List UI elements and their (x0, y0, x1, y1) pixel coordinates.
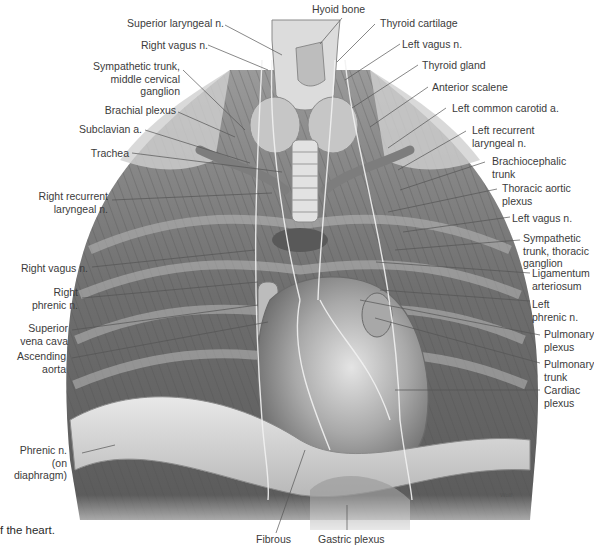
artist-signature: Wolf (500, 489, 512, 502)
label-superior-laryngeal-n: Superior laryngeal n. (127, 17, 224, 30)
label-thoracic-aortic-plexus: Thoracic aortic plexus (502, 182, 571, 207)
label-left-common-carotid-a: Left common carotid a. (452, 102, 559, 115)
label-left-vagus-n-lower: Left vagus n. (512, 212, 572, 225)
label-pulmonary-plexus: Pulmonary plexus (544, 328, 594, 353)
aortic-arch (272, 228, 328, 252)
label-ascending-aorta: Ascending aorta (17, 350, 66, 375)
label-right-vagus-n-lower: Right vagus n. (21, 262, 88, 275)
label-left-vagus-n-upper: Left vagus n. (402, 38, 462, 51)
label-cardiac-plexus: Cardiac plexus (544, 384, 580, 409)
label-right-recurrent-laryngeal-n: Right recurrent laryngeal n. (39, 190, 108, 215)
caption-fragment: f the heart. (0, 524, 55, 537)
label-subclavian-a: Subclavian a. (79, 123, 142, 136)
label-brachial-plexus: Brachial plexus (105, 104, 176, 117)
label-sympathetic-trunk-thoracic: Sympathetic trunk, thoracic ganglion (523, 232, 589, 270)
label-left-recurrent-laryngeal-n: Left recurrent laryngeal n. (472, 124, 534, 149)
label-left-phrenic-n: Left phrenic n. (532, 298, 578, 323)
label-thyroid-gland: Thyroid gland (422, 59, 486, 72)
label-ligamentum-arteriosum: Ligamentum arteriosum (532, 267, 590, 292)
label-pulmonary-trunk: Pulmonary trunk (544, 358, 594, 383)
label-right-phrenic-n: Right phrenic n. (32, 286, 78, 311)
label-phrenic-n-diaphragm: Phrenic n. (on diaphragm) (0, 444, 67, 482)
label-superior-vena-cava: Superior vena cava (20, 322, 68, 347)
label-gastric-plexus: Gastric plexus (318, 533, 385, 546)
label-trachea: Trachea (91, 147, 129, 160)
label-fibrous: Fibrous (256, 533, 291, 546)
label-thyroid-cartilage: Thyroid cartilage (380, 17, 458, 30)
label-right-vagus-n-upper: Right vagus n. (141, 39, 208, 52)
label-brachiocephalic-trunk: Brachiocephalic trunk (492, 155, 566, 180)
label-anterior-scalene: Anterior scalene (432, 81, 508, 94)
label-sympathetic-trunk-cervical: Sympathetic trunk, middle cervical gangl… (93, 60, 180, 98)
label-hyoid-bone: Hyoid bone (312, 3, 365, 16)
